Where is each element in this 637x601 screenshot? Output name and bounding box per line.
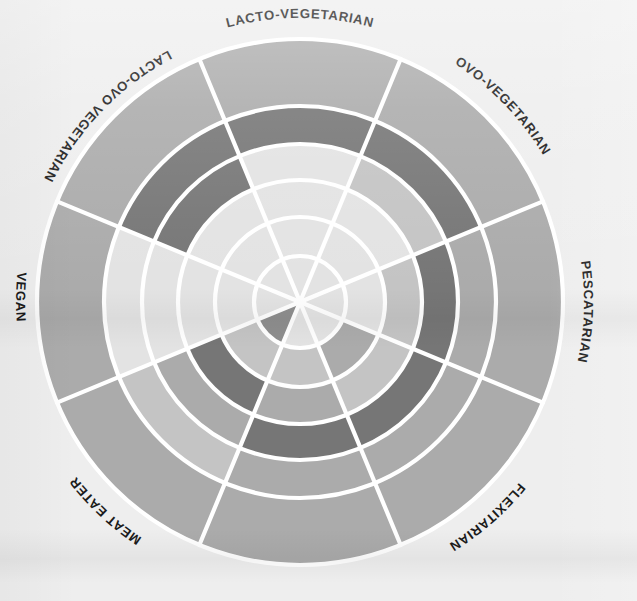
label-pescatarian: PESCATARIAN [575, 260, 596, 365]
radial-diet-chart: LACTO-VEGETARIAN OVO-VEGETARIAN PESCATAR… [0, 0, 637, 601]
label-lacto-vegetarian: LACTO-VEGETARIAN [224, 6, 375, 30]
chart-canvas: LACTO-VEGETARIAN OVO-VEGETARIAN PESCATAR… [0, 0, 637, 601]
label-vegan: VEGAN [13, 272, 30, 323]
